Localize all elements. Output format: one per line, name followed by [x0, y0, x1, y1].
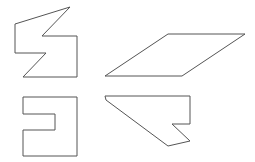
parallelogram	[105, 34, 245, 76]
s-shaped-polygon	[15, 7, 77, 77]
bracket-polygon	[23, 97, 77, 156]
shapes-canvas	[0, 0, 255, 162]
notched-trapezoid	[105, 96, 190, 146]
